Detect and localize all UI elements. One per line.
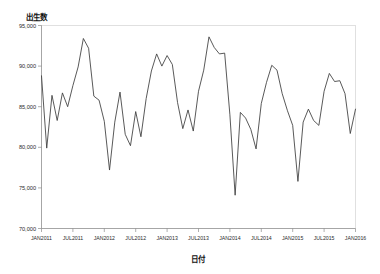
x-tick-label: JAN2015: [282, 235, 303, 241]
y-tick-label: 95,000: [19, 23, 36, 29]
y-tick-label: 75,000: [19, 185, 36, 191]
y-tick-label: 90,000: [19, 63, 36, 69]
y-tick-label: 70,000: [19, 226, 36, 232]
x-tick-label: JAN2013: [156, 235, 177, 241]
x-tick-label: JUL2014: [251, 235, 272, 241]
series-line-birth-count: [42, 37, 356, 195]
x-tick-label: JUL2012: [125, 235, 146, 241]
x-tick-label: JUL2011: [63, 235, 83, 241]
x-tick-label: JAN2014: [219, 235, 240, 241]
chart-canvas: 出生数 日付 95,00090,00085,00080,00075,00070,…: [0, 0, 380, 274]
x-axis-ticks: JAN2011JUL2011JAN2012JUL2012JAN2013JUL20…: [31, 229, 366, 241]
birth-count-line-chart: 出生数 日付 95,00090,00085,00080,00075,00070,…: [0, 0, 380, 274]
plot-area-frame: [42, 26, 356, 229]
x-tick-label: JUL2013: [188, 235, 209, 241]
y-tick-label: 85,000: [19, 104, 36, 110]
x-tick-label: JAN2011: [31, 235, 52, 241]
y-axis-title: 出生数: [26, 12, 48, 22]
x-tick-label: JAN2016: [345, 235, 366, 241]
x-tick-label: JAN2012: [94, 235, 115, 241]
series-group: [42, 37, 356, 195]
y-tick-label: 80,000: [19, 144, 36, 150]
y-axis-ticks: 95,00090,00085,00080,00075,00070,000: [19, 23, 42, 232]
x-tick-label: JUL2015: [314, 235, 335, 241]
x-axis-title: 日付: [191, 254, 206, 264]
